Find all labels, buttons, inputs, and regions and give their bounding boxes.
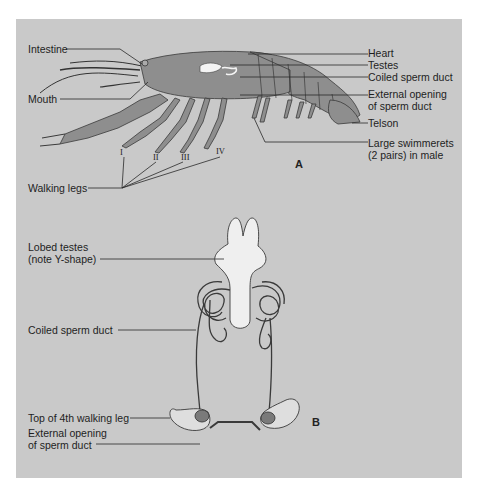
leg-number-1: I <box>120 147 123 157</box>
leg-number-4: IV <box>216 146 225 156</box>
label-testes: Testes <box>368 59 398 71</box>
label-external-opening-a-2: of sperm duct <box>368 100 432 112</box>
label-swimmerets-2: (2 pairs) in male <box>368 149 443 161</box>
label-external-opening-b-1: External opening <box>28 427 107 439</box>
label-mouth: Mouth <box>28 93 57 105</box>
label-lobed-testes-2: (note Y-shape) <box>28 253 96 265</box>
label-lobed-testes-1: Lobed testes <box>28 241 88 253</box>
label-external-opening-a-1: External opening <box>368 88 447 100</box>
panel-label-a: A <box>295 158 303 170</box>
label-walking-legs: Walking legs <box>28 182 87 194</box>
label-telson: Telson <box>368 117 398 129</box>
label-top-4th-walking-leg: Top of 4th walking leg <box>28 412 129 424</box>
testes-illustration <box>215 218 266 328</box>
label-heart: Heart <box>368 47 394 59</box>
leg-number-3: III <box>181 152 190 162</box>
panel-label-b: B <box>312 416 320 428</box>
walking-leg-bases <box>170 399 299 431</box>
label-external-opening-b-2: of sperm duct <box>28 439 92 451</box>
leg-number-2: II <box>153 152 159 162</box>
label-intestine: Intestine <box>28 43 68 55</box>
label-coiled-sperm-duct-b: Coiled sperm duct <box>28 324 113 336</box>
label-coiled-sperm-duct-a: Coiled sperm duct <box>368 71 453 83</box>
label-swimmerets-1: Large swimmerets <box>368 137 454 149</box>
